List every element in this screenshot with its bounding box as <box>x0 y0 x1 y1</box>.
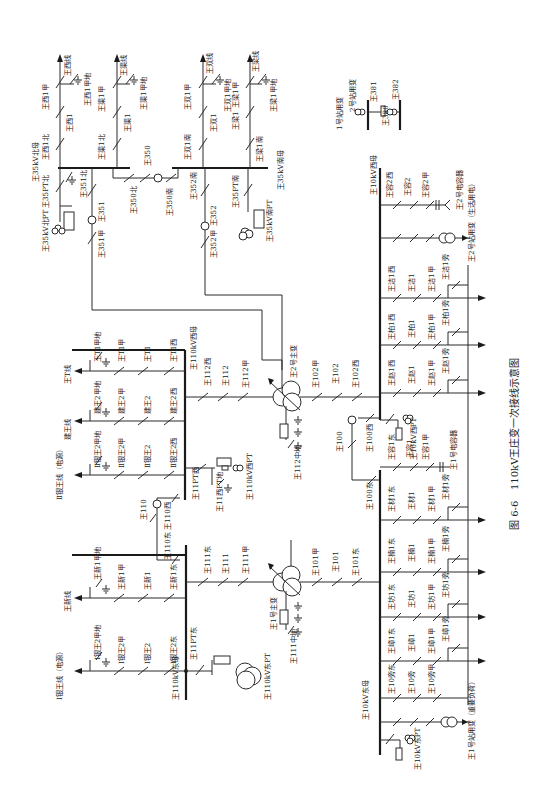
svg-text:王111: 王111 <box>221 553 230 574</box>
lv-bay-101[interactable]: 王101甲 王101 王101东 <box>300 548 380 586</box>
svg-text:王新1: 王新1 <box>143 571 152 590</box>
capacitor-2[interactable]: 王容2西 王容2 王容2甲 王2号电容器 <box>380 170 464 210</box>
bus-tie-10kv[interactable]: 王100西 王100 王100东 <box>335 414 380 510</box>
svg-text:王35PT北: 王35PT北 <box>41 175 50 208</box>
svg-text:王双1南: 王双1南 <box>183 134 192 160</box>
svg-text:王材1: 王材1 <box>407 491 416 510</box>
svg-text:王新线: 王新线 <box>63 591 72 612</box>
pt-10kv-east[interactable]: 王10kV东PT <box>380 727 422 770</box>
svg-text:王101甲: 王101甲 <box>311 548 320 576</box>
pt-110kv-west[interactable]: 王11PT西 王11西PT地 王110kV西PT <box>185 453 254 512</box>
pt-35kv-south[interactable]: 王35PT南 王35kV南PT <box>231 168 274 242</box>
svg-text:王梁1: 王梁1 <box>231 111 240 130</box>
bus-110kv-west-label: 王110kV西母 <box>189 326 198 370</box>
bus-tie-35kv-350[interactable]: 王350北 王350 王350南 <box>113 145 178 216</box>
incomer-35kv-351[interactable]: 王351北 王351 王351甲 <box>79 168 106 262</box>
svg-text:王1号电容器: 王1号电容器 <box>449 430 458 470</box>
bus-35kv-south-label: 王35kV南母 <box>276 150 285 190</box>
single-line-diagram: 王35kV北母 王35kV南母 王西1北 王西1 王西1甲 王西1甲地 王西线 … <box>0 0 536 795</box>
svg-text:王赵1: 王赵1 <box>407 365 416 384</box>
svg-text:王111东: 王111东 <box>203 546 212 574</box>
svg-text:Ⅱ银王线（电源）: Ⅱ银王线（电源） <box>55 446 64 500</box>
bay-110kv-111[interactable]: 王111东 王111 王111甲 <box>186 546 276 586</box>
svg-text:王382: 王382 <box>391 79 400 100</box>
svg-text:王材1旁: 王材1旁 <box>441 474 450 500</box>
feeder-35kv-wangshuang[interactable]: 王双1南 王双1 王双1甲 王双1甲地 王双线 <box>183 53 232 168</box>
svg-text:王洁1甲: 王洁1甲 <box>427 266 436 292</box>
svg-text:王350北: 王350北 <box>129 186 138 214</box>
feeder-10kv-wangbai[interactable]: 王柏1西 王柏1 王柏1甲 王柏1旁 <box>380 300 486 349</box>
svg-text:建王2西: 建王2西 <box>169 388 178 414</box>
bypass-bay-10kv[interactable]: 王10旁东 王10旁 王10旁甲 <box>380 664 468 702</box>
svg-text:王35kV北PT: 王35kV北PT <box>41 209 50 252</box>
svg-text:王柏1西: 王柏1西 <box>387 314 396 340</box>
feeder-10kv-wangcai[interactable]: 王材1东 王材1 王材1甲 王材1旁 <box>380 474 486 524</box>
svg-text:王110: 王110 <box>139 499 148 520</box>
feeder-10kv-wangnan[interactable]: 王楠1东 王楠1 王楠1甲 王楠1旁 <box>380 526 486 576</box>
lv-bay-102[interactable]: 王102甲 王102 王102西 <box>300 360 380 401</box>
svg-text:王容2甲: 王容2甲 <box>421 172 430 198</box>
svg-text:王11PT东: 王11PT东 <box>189 627 198 660</box>
feeder-10kv-wangfang[interactable]: 王坊1东 王坊1 王坊1甲 王坊1旁 <box>380 572 486 621</box>
svg-text:Ⅰ银王2: Ⅰ银王2 <box>143 643 152 664</box>
pt-35kv-north[interactable]: 王35PT北 王35kV北PT <box>41 168 76 252</box>
svg-text:王T线: 王T线 <box>63 365 72 384</box>
feeder-110kv-yinwang-2[interactable]: Ⅱ银王线（电源） Ⅱ银王2甲地 Ⅱ银王2甲 Ⅱ银王2 Ⅱ银王2西 <box>55 431 185 500</box>
svg-text:王梁1甲地: 王梁1甲地 <box>269 79 278 112</box>
svg-text:1号站用变: 1号站用变 <box>335 97 344 130</box>
svg-text:王嶂1东: 王嶂1东 <box>387 628 396 654</box>
svg-text:王2号站用变（生活用电）: 王2号站用变（生活用电） <box>467 180 476 262</box>
svg-text:王楠1东: 王楠1东 <box>387 538 396 564</box>
svg-text:王西1北: 王西1北 <box>41 134 50 160</box>
svg-text:王11西PT地: 王11西PT地 <box>215 472 224 512</box>
svg-text:王10kV东PT: 王10kV东PT <box>413 727 422 770</box>
feeder-35kv-wangxi[interactable]: 王西1北 王西1 王西1甲 王西1甲地 王西线 <box>41 54 92 168</box>
pt-110kv-east[interactable]: 王11PT东 王110kV东PT <box>186 627 272 700</box>
svg-text:建王2甲: 建王2甲 <box>117 388 126 414</box>
feeder-35kv-wangqu[interactable]: 王渠1北 王渠1 王渠1甲 王渠1甲地 王渠线 <box>97 54 148 168</box>
feeder-10kv-wangzhang[interactable]: 王嶂1东 王嶂1 王嶂1甲 王嶂1旁 <box>380 616 486 665</box>
svg-text:王渠线: 王渠线 <box>119 55 128 76</box>
svg-text:王10旁: 王10旁 <box>407 671 416 694</box>
capacitor-1[interactable]: 王容1东 王容1 王容1甲 王1号电容器 <box>380 430 458 472</box>
svg-text:Ⅱ银王2甲地: Ⅱ银王2甲地 <box>93 431 102 468</box>
svg-text:王112甲: 王112甲 <box>241 360 250 388</box>
svg-text:王新1东: 王新1东 <box>169 564 178 590</box>
transformer-1[interactable]: 王1号主变 王111中地 <box>268 540 302 664</box>
svg-text:王坊1: 王坊1 <box>407 589 416 608</box>
figure-number: 图 6-6 <box>509 501 520 530</box>
bus-tie-110kv[interactable]: 王110西 王110 王110东 <box>139 494 180 564</box>
svg-text:王楠1甲: 王楠1甲 <box>427 538 436 564</box>
svg-text:王坊1东: 王坊1东 <box>387 584 396 610</box>
feeder-110kv-jianwang[interactable]: 建王线 建王2甲地 建王2甲 建王2 建王2西 <box>63 381 185 440</box>
svg-text:王洁1旁: 王洁1旁 <box>441 254 450 280</box>
svg-text:王110kV东PT: 王110kV东PT <box>263 653 272 700</box>
svg-text:王100西: 王100西 <box>365 424 374 452</box>
svg-text:王112: 王112 <box>221 365 230 386</box>
station-aux-380v[interactable]: 1号站用变 王381 王380 2号站用变 王382 <box>335 79 400 130</box>
svg-text:王楠1旁: 王楠1旁 <box>441 526 450 552</box>
bay-110kv-112[interactable]: 王112西 王112 王112甲 <box>185 358 276 401</box>
svg-text:王110东: 王110东 <box>163 532 172 560</box>
svg-text:王双1甲: 王双1甲 <box>183 84 192 110</box>
svg-text:王100: 王100 <box>335 431 344 452</box>
svg-text:王2号主变: 王2号主变 <box>289 345 298 378</box>
svg-text:王35kV南PT: 王35kV南PT <box>265 199 274 242</box>
svg-text:王T1: 王T1 <box>143 346 152 362</box>
svg-text:王新1甲: 王新1甲 <box>117 564 126 590</box>
svg-text:王容1东: 王容1东 <box>387 434 396 460</box>
feeder-35kv-wangliang[interactable]: 王梁1南 王梁1 王梁1甲 王梁1甲地 王梁线 <box>231 51 278 168</box>
svg-text:王352: 王352 <box>209 205 218 226</box>
svg-text:王梁1南: 王梁1南 <box>255 136 264 162</box>
svg-text:王赵1西: 王赵1西 <box>387 360 396 386</box>
svg-text:王坊1旁: 王坊1旁 <box>441 572 450 598</box>
transformer-2[interactable]: 王2号主变 王112中地 <box>262 345 302 480</box>
svg-text:王101东: 王101东 <box>351 548 360 576</box>
feeder-10kv-wangzhao[interactable]: 王赵1西 王赵1 王赵1甲 王赵1旁 <box>380 348 486 397</box>
svg-text:Ⅱ银王2甲: Ⅱ银王2甲 <box>117 438 126 468</box>
incomer-35kv-352[interactable]: 王352南 王352 王352甲 <box>189 168 218 292</box>
svg-text:王102: 王102 <box>331 363 340 384</box>
feeder-110kv-yinwang-1[interactable]: Ⅰ银王线（电源） Ⅰ银王2甲地 Ⅰ银王2甲 Ⅰ银王2 Ⅰ银王2东 <box>55 625 188 700</box>
feeder-110kv-wangt[interactable]: 王T线 王T1甲地 王T1甲 王T1 王T1西 <box>63 332 185 384</box>
svg-text:王容1: 王容1 <box>405 439 414 458</box>
